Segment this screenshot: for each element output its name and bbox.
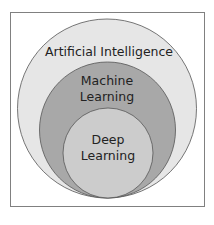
label-deep-learning-line2: Learning xyxy=(81,148,135,163)
ai-ml-dl-diagram: Artificial Intelligence Machine Learning… xyxy=(0,0,214,225)
label-deep-learning-line1: Deep xyxy=(92,132,125,147)
label-machine-learning-line1: Machine xyxy=(81,73,134,88)
label-machine-learning-line2: Learning xyxy=(80,89,134,104)
label-artificial-intelligence: Artificial Intelligence xyxy=(45,44,173,59)
